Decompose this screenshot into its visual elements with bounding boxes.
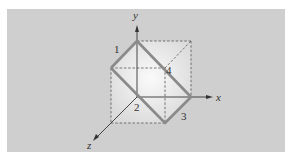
- z-axis-label: z: [86, 139, 92, 151]
- y-arrow-icon: [135, 25, 139, 32]
- x-arrow-icon: [206, 95, 213, 99]
- vertex-label-2: 2: [134, 101, 140, 113]
- cube-diagram: y x z 1 2 3 4: [0, 0, 290, 160]
- vertex-label-4: 4: [166, 64, 172, 76]
- z-arrow-icon: [93, 134, 99, 141]
- y-axis-label: y: [132, 9, 138, 21]
- vertex-label-1: 1: [114, 43, 120, 55]
- x-axis-label: x: [215, 91, 221, 103]
- vertex-label-3: 3: [181, 110, 187, 122]
